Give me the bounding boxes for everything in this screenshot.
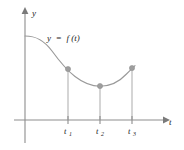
curve-point-t3: [129, 65, 134, 70]
function-label-argument: (t): [71, 33, 80, 43]
graph-canvas: y t y = f (t) t 1 t 2: [0, 0, 184, 150]
function-label-f: f: [67, 33, 71, 43]
tick-label-t2-subscript: 2: [101, 131, 104, 137]
tick-label-t1: t 1: [64, 126, 72, 137]
tick-label-t2: t 2: [96, 126, 104, 137]
tick-label-t2-base: t: [96, 126, 99, 136]
tick-label-t3-subscript: 3: [132, 131, 136, 137]
curve-point-t1: [65, 66, 70, 71]
function-label-y: y: [46, 33, 51, 43]
tick-label-t3: t 3: [128, 126, 136, 137]
tick-label-t1-base: t: [64, 126, 67, 136]
tick-label-t1-subscript: 1: [69, 131, 72, 137]
function-graph-figure: y t y = f (t) t 1 t 2: [0, 0, 184, 150]
tick-label-t3-base: t: [128, 126, 131, 136]
curve-point-t2: [97, 83, 102, 88]
t-axis-label: t: [169, 117, 172, 127]
function-label-equals: =: [56, 33, 61, 43]
y-axis-arrow-icon: [22, 7, 29, 14]
function-curve: [25, 36, 135, 86]
y-axis-label: y: [31, 8, 36, 18]
function-equation-label: y = f (t): [46, 33, 80, 43]
